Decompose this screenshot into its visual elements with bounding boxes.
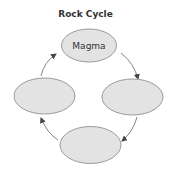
arrow-left-to-top bbox=[41, 54, 56, 76]
arrow-top-to-right bbox=[121, 53, 138, 79]
node-left bbox=[14, 78, 75, 114]
rock-cycle-diagram: Magma bbox=[0, 0, 171, 179]
node-right bbox=[102, 79, 163, 115]
node-bottom bbox=[60, 127, 121, 164]
arrow-bottom-to-left bbox=[41, 118, 58, 140]
arrow-right-to-bottom bbox=[122, 117, 137, 141]
node-label-magma: Magma bbox=[72, 41, 105, 51]
node-magma: Magma bbox=[62, 29, 117, 62]
